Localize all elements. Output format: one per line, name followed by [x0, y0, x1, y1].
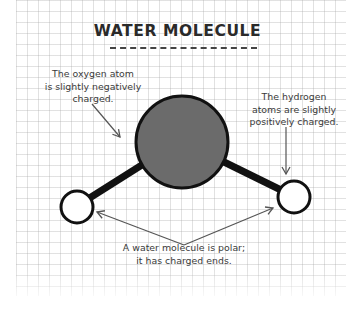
hydrogen-atom-right	[278, 181, 310, 213]
polarity-label: A water molecule is polar; it has charge…	[104, 242, 264, 267]
bond-left	[88, 163, 145, 199]
diagram-canvas: WATER MOLECULE The oxygen atom is slight…	[0, 0, 355, 309]
polar-arrow-right	[184, 208, 273, 245]
oxygen-charge-label: The oxygen atom is slightly negatively c…	[38, 68, 148, 106]
bond-right	[222, 161, 283, 191]
oxygen-arrow	[92, 104, 120, 137]
oxygen-atom	[136, 96, 228, 188]
hydrogen-charge-label: The hydrogen atoms are slightly positive…	[240, 91, 348, 129]
polar-arrow-left	[97, 212, 184, 245]
hydrogen-atom-left	[61, 191, 93, 223]
